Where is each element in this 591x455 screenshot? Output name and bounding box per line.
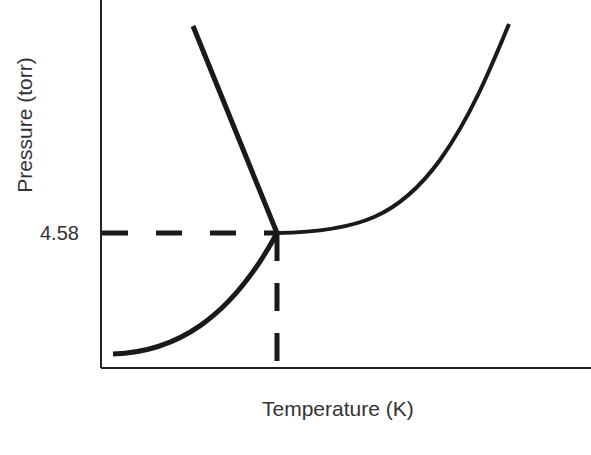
y-tick-label: 4.58 [40, 222, 79, 245]
vaporization-curve [277, 24, 509, 233]
phase-diagram: Pressure (torr) 4.58 Temperature (K) [0, 0, 591, 455]
sublimation-curve [113, 233, 277, 354]
solid-liquid-boundary [193, 26, 277, 233]
x-axis-label: Temperature (K) [262, 397, 414, 421]
phase-diagram-plot [0, 0, 591, 455]
y-axis-label: Pressure (torr) [13, 57, 37, 192]
y-axis-label-box: Pressure (torr) [0, 0, 50, 300]
